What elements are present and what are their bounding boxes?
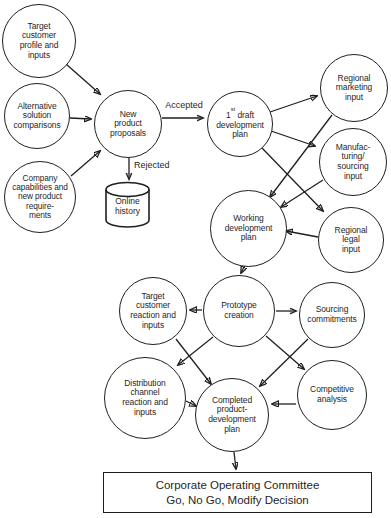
arrow-manufacturing-to-working-plan [281,180,323,207]
node-text: ments [5,211,75,220]
node-prototype-creation: Prototype creation [203,275,275,347]
arrow-first-draft-to-manufacturing [271,131,315,146]
node-text: comparisons [5,121,69,131]
arrow-completed-plan-to-committee [234,452,236,469]
database-cylinder-top-icon [106,183,149,197]
node-distribution-channel-reaction: Distribution channel reaction and inputs [104,357,186,439]
node-text: creation [204,311,274,321]
arrow-prototype-to-distribution-channel [178,337,213,365]
arrow-target-reaction-to-completed-plan [176,339,211,384]
node-text: input [320,172,386,182]
arrow-prototype-to-competitive-analysis [266,336,304,369]
node-manufacturing-sourcing-input: Manufac- turing/ sourcing input [319,128,387,196]
node-text: inputs [120,321,186,331]
node-text: input [319,245,383,255]
node-company-capabilities: Company capabilities and new product req… [4,161,76,233]
committee-decision: Go, No Go, Modify Decision [166,493,309,508]
node-sourcing-commitments: Sourcing commitments [299,282,365,348]
edge-label-accepted: Accepted [161,100,207,110]
node-competitive-analysis: Competitive analysis [297,360,367,430]
node-text: proposals [95,129,161,139]
node-text: inputs [3,51,75,61]
node-text: plan [208,130,272,140]
committee-title: Corporate Operating Committee [156,478,320,493]
node-alternative-solution-comparisons: Alternative solution comparisons [4,83,70,149]
node-regional-marketing-input: Regional marketing input [320,54,388,122]
node-online-history: Online history [106,197,149,217]
node-text: input [321,93,387,103]
arrow-target-profile-to-new-product [66,64,100,94]
node-text: 1stdraft [208,108,272,120]
node-working-development-plan: Working development plan [210,190,287,267]
arrow-first-draft-to-regional-marketing [270,96,317,112]
node-text: plan [196,425,268,435]
node-target-customer-reaction: Target customer reaction and inputs [119,277,187,345]
arrow-distribution-to-completed-plan [186,401,196,406]
node-new-product-proposals: New product proposals [94,90,162,158]
node-text: plan [211,233,286,243]
node-first-draft-development-plan: 1stdraft development plan [207,91,273,157]
arrow-regional-legal-to-working-plan [286,231,318,237]
node-text: inputs [105,408,185,418]
node-corporate-operating-committee: Corporate Operating Committee Go, No Go,… [103,472,372,513]
node-text: commitments [300,315,364,325]
arrow-company-capabilities-to-new-product [71,151,100,176]
node-completed-product-development-plan: Completed product- development plan [195,378,269,452]
node-text: history [106,207,149,217]
arrow-alternative-solutions-to-new-product [70,118,91,119]
edge-label-rejected: Rejected [134,160,170,170]
flowchart-canvas: Target customer profile and inputs Alter… [0,0,391,518]
node-target-customer-profile: Target customer profile and inputs [2,4,76,78]
node-regional-legal-input: Regional legal input [318,207,384,273]
node-text: analysis [298,395,366,405]
